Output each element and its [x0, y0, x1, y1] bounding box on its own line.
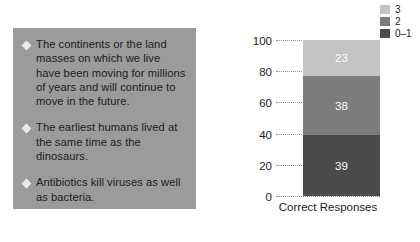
x-axis-label: Correct Responses	[236, 201, 420, 213]
plot-area: 020406080100 393823	[303, 40, 380, 196]
bar-value-label: 38	[335, 100, 348, 112]
bar-stack: 393823	[303, 40, 380, 196]
legend-label: 2	[395, 16, 401, 27]
legend-swatch	[380, 5, 390, 14]
diamond-bullet-icon	[22, 124, 32, 134]
list-item: The continents or the land masses on whi…	[23, 37, 186, 108]
statement-text: The continents or the land masses on whi…	[36, 37, 186, 108]
diamond-bullet-icon	[22, 179, 32, 189]
legend-item: 3	[380, 3, 420, 15]
list-item: Antibiotics kill viruses as well as bact…	[23, 175, 186, 204]
statement-text: Antibiotics kill viruses as well as bact…	[36, 175, 186, 204]
y-axis-tick-label: 60	[259, 97, 272, 109]
bar-value-label: 23	[335, 52, 348, 64]
bar-value-label: 39	[335, 160, 348, 172]
legend-label: 0–1	[395, 28, 412, 39]
statements-panel: The continents or the land masses on whi…	[13, 28, 196, 209]
y-axis-tick-label: 80	[259, 66, 272, 78]
list-item: The earliest humans lived at the same ti…	[23, 120, 186, 163]
legend-swatch	[380, 17, 390, 26]
y-axis-tick-label: 20	[259, 160, 272, 172]
legend-item: 0–1	[380, 27, 420, 39]
legend-label: 3	[395, 4, 401, 15]
statement-text: The earliest humans lived at the same ti…	[36, 120, 186, 163]
bar-segment: 38	[303, 76, 380, 135]
diamond-bullet-icon	[22, 41, 32, 51]
legend-swatch	[380, 29, 390, 38]
gridline: 0	[276, 196, 380, 197]
bar-segment: 39	[303, 135, 380, 196]
bar-segment: 23	[303, 40, 380, 76]
y-axis-tick-label: 40	[259, 129, 272, 141]
legend-item: 2	[380, 15, 420, 27]
chart-legend: 320–1	[380, 3, 420, 39]
y-axis-tick-label: 100	[253, 35, 272, 47]
